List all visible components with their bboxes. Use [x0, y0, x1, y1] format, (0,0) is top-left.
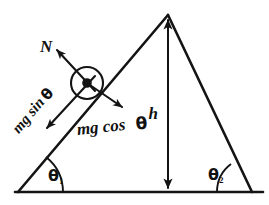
angle-right-label: θ: [208, 165, 219, 184]
mg-sin-theta-label-roman: mg sin: [9, 94, 48, 136]
angle-left-label: θ: [48, 166, 59, 185]
mg-cos-theta-label-group: mg cos θ: [76, 113, 148, 140]
mg-cos-theta-label-roman: mg cos: [76, 115, 127, 139]
mg-sin-theta-label-group: mg sin θ: [9, 84, 58, 137]
angle-right-subscript: 2: [219, 175, 224, 185]
height-label: h: [149, 104, 158, 123]
angle-left-subscript: 1: [59, 176, 64, 186]
angle-right-label-group: θ 2: [208, 165, 224, 186]
normal-force-label: N: [39, 37, 53, 56]
inclined-plane-diagram: h θ 1 θ 2 N mg sin: [0, 0, 269, 205]
mg-cos-theta-label-greek: θ: [135, 113, 149, 134]
angle-left-label-group: θ 1: [48, 166, 64, 187]
figure-root: h θ 1 θ 2 N mg sin: [0, 0, 269, 205]
